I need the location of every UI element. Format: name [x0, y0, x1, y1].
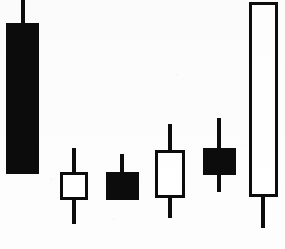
- candlestick-6: [0, 0, 285, 249]
- lower-wick-6: [261, 195, 265, 228]
- candlestick-chart: [0, 0, 285, 249]
- candle-body-6-bullish: [249, 2, 278, 197]
- candle-series: [0, 0, 285, 249]
